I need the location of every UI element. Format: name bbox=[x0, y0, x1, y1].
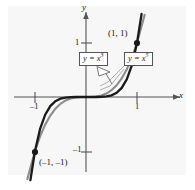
y-tick-label-neg1: –1 bbox=[73, 144, 82, 154]
x-tick-label-pos1: 1 bbox=[135, 101, 139, 111]
callout-label-y-equals-x-fifth: y = x5 bbox=[124, 52, 153, 66]
y-axis-label: y bbox=[82, 2, 86, 12]
y-tick-label-pos1: 1 bbox=[75, 37, 79, 47]
callout-x3-exponent: 3 bbox=[101, 52, 104, 58]
callout-tail-x3 bbox=[97, 67, 110, 77]
axes-group bbox=[14, 12, 180, 172]
callout-x5-exponent: 5 bbox=[146, 52, 149, 58]
point-marker-neg1-neg1 bbox=[32, 149, 38, 155]
callout-x5-base: y = x bbox=[128, 53, 146, 63]
leader-line-x3-group bbox=[97, 67, 112, 85]
figure-graph-x3-x5: y x –1 1 1 –1 (1, 1) (–1, –1) y = x3 y =… bbox=[0, 0, 195, 190]
callout-x3-base: y = x bbox=[83, 53, 101, 63]
x-axis-label: x bbox=[179, 90, 183, 100]
callout-label-y-equals-x-cubed: y = x3 bbox=[79, 52, 108, 66]
graph-canvas bbox=[0, 0, 195, 190]
point-label-neg1-neg1: (–1, –1) bbox=[39, 157, 68, 167]
point-label-1-1: (1, 1) bbox=[108, 28, 128, 38]
y-axis-arrowhead bbox=[83, 12, 89, 19]
x-tick-label-neg1: –1 bbox=[30, 101, 39, 111]
point-marker-1-1 bbox=[134, 40, 140, 46]
